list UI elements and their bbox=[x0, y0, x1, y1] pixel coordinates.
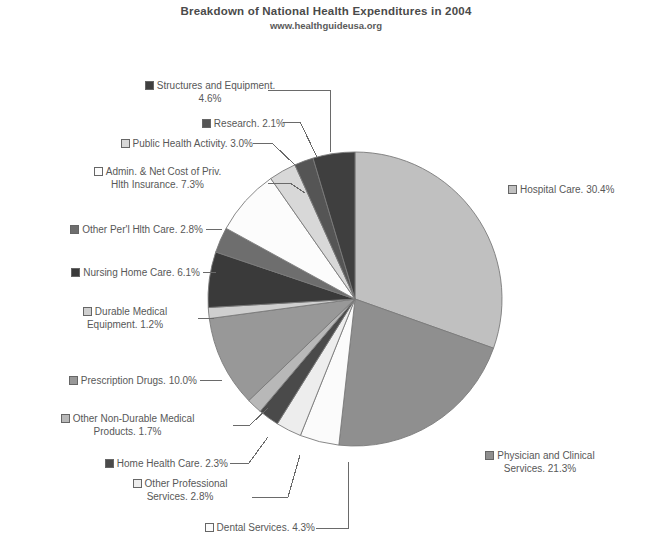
legend-swatch-physician-icon bbox=[485, 451, 494, 460]
label-other-non-durable-medical-products: Other Non-Durable Medical Products. 1.7% bbox=[25, 412, 230, 438]
label-nursing-home-line1: Nursing Home Care. 6.1% bbox=[83, 267, 200, 278]
leader-line-home-health bbox=[230, 437, 268, 463]
label-research: Research. 2.1% bbox=[110, 117, 285, 130]
label-other-personal-line1: Other Per'l Hlth Care. 2.8% bbox=[82, 224, 203, 235]
legend-swatch-admin-icon bbox=[94, 167, 103, 176]
label-other-personal-health-care: Other Per'l Hlth Care. 2.8% bbox=[20, 223, 203, 236]
label-prescription-drugs-line1: Prescription Drugs. 10.0% bbox=[81, 375, 197, 386]
pie-chart-figure: Breakdown of National Health Expenditure… bbox=[0, 0, 652, 558]
label-prescription-drugs: Prescription Drugs. 10.0% bbox=[14, 374, 197, 387]
label-home-health-line1: Home Health Care. 2.3% bbox=[117, 458, 228, 469]
label-research-line1: Research. 2.1% bbox=[214, 118, 285, 129]
legend-swatch-structures-icon bbox=[145, 81, 154, 90]
label-public-health-activity: Public Health Activity. 3.0% bbox=[55, 137, 253, 150]
label-structures-line1: Structures and Equipment. bbox=[157, 80, 275, 91]
label-other-nondurable-line1: Other Non-Durable Medical bbox=[73, 413, 195, 424]
label-physician-line1: Physician and Clinical bbox=[497, 450, 594, 461]
legend-swatch-public-health-icon bbox=[121, 139, 130, 148]
label-nursing-home-care: Nursing Home Care. 6.1% bbox=[20, 266, 200, 279]
label-admin-net-cost: Admin. & Net Cost of Priv. Hlth Insuranc… bbox=[50, 165, 265, 191]
legend-swatch-hospital-care-icon bbox=[508, 185, 517, 194]
legend-swatch-durable-medical-icon bbox=[83, 307, 92, 316]
legend-swatch-other-personal-icon bbox=[70, 225, 79, 234]
leader-line-dental bbox=[316, 462, 348, 528]
label-durable-medical-line2: Equipment. 1.2% bbox=[55, 318, 195, 331]
label-admin-line2: Hlth Insurance. 7.3% bbox=[50, 178, 265, 191]
label-durable-medical-line1: Durable Medical bbox=[95, 306, 167, 317]
label-physician-and-clinical-services: Physician and Clinical Services. 21.3% bbox=[460, 449, 620, 475]
label-structures-line2: 4.6% bbox=[120, 92, 300, 105]
label-durable-medical-equipment: Durable Medical Equipment. 1.2% bbox=[55, 305, 195, 331]
leader-line-public-health bbox=[253, 143, 296, 166]
label-home-health-care: Home Health Care. 2.3% bbox=[45, 457, 228, 470]
label-other-professional-line1: Other Professional bbox=[145, 478, 228, 489]
legend-swatch-other-professional-icon bbox=[133, 479, 142, 488]
legend-swatch-other-nondurable-icon bbox=[61, 414, 70, 423]
legend-swatch-nursing-home-icon bbox=[71, 268, 80, 277]
label-other-professional-line2: Services. 2.8% bbox=[110, 490, 250, 503]
label-dental-line1: Dental Services. 4.3% bbox=[217, 522, 315, 533]
label-physician-line2: Services. 21.3% bbox=[460, 462, 620, 475]
label-other-professional-services: Other Professional Services. 2.8% bbox=[110, 477, 250, 503]
label-admin-line1: Admin. & Net Cost of Priv. bbox=[106, 166, 221, 177]
label-hospital-care: Hospital Care. 30.4% bbox=[508, 183, 652, 196]
legend-swatch-dental-icon bbox=[205, 523, 214, 532]
legend-swatch-home-health-icon bbox=[105, 459, 114, 468]
label-structures-and-equipment: Structures and Equipment. 4.6% bbox=[120, 79, 300, 105]
leader-line-research bbox=[283, 122, 317, 157]
label-dental-services: Dental Services. 4.3% bbox=[140, 521, 315, 534]
leader-line-other-professional bbox=[252, 455, 300, 497]
pie-slices bbox=[208, 152, 502, 446]
label-other-nondurable-line2: Products. 1.7% bbox=[25, 425, 230, 438]
legend-swatch-research-icon bbox=[202, 119, 211, 128]
legend-swatch-prescription-drugs-icon bbox=[69, 376, 78, 385]
label-hospital-care-line1: Hospital Care. 30.4% bbox=[520, 184, 615, 195]
label-public-health-line1: Public Health Activity. 3.0% bbox=[133, 138, 253, 149]
